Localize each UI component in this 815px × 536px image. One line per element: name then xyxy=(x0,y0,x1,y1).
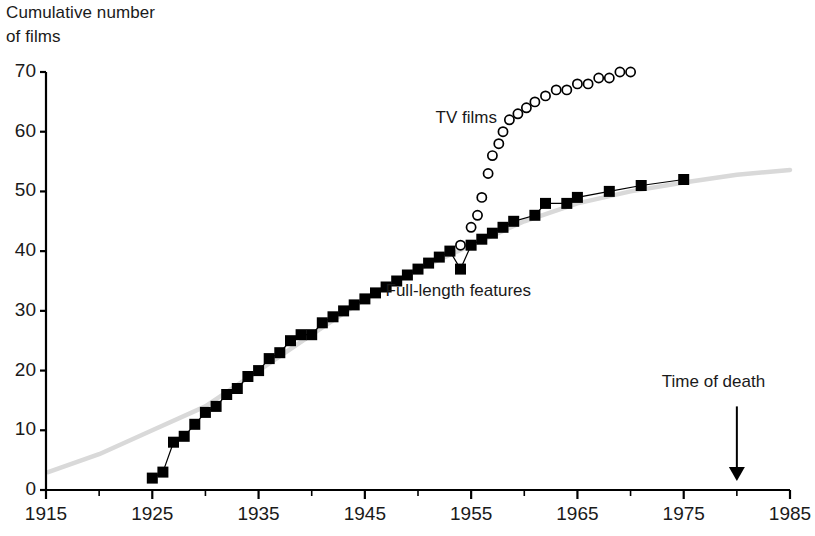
data-point-tv xyxy=(488,151,497,160)
y-axis-tick-label: 50 xyxy=(0,179,36,201)
data-point-tv xyxy=(498,127,507,136)
data-point-feature xyxy=(604,186,615,197)
x-axis-tick-label: 1985 xyxy=(755,503,815,525)
x-axis-tick-label: 1965 xyxy=(542,503,612,525)
annotation-time-of-death: Time of death xyxy=(662,372,765,392)
data-point-tv xyxy=(467,223,476,232)
data-point-feature xyxy=(636,180,647,191)
data-point-feature xyxy=(328,311,339,322)
data-point-feature xyxy=(572,192,583,203)
data-point-tv xyxy=(541,91,550,100)
data-point-feature xyxy=(306,329,317,340)
data-point-feature xyxy=(561,198,572,209)
data-point-feature xyxy=(402,270,413,281)
data-point-feature xyxy=(444,246,455,257)
data-point-tv xyxy=(552,85,561,94)
data-point-tv xyxy=(513,109,522,118)
data-point-feature xyxy=(296,329,307,340)
data-point-tv xyxy=(494,139,503,148)
data-point-feature xyxy=(338,305,349,316)
data-point-tv xyxy=(484,169,493,178)
annotation-full-length-features: Full-length features xyxy=(386,281,532,301)
y-axis-tick-label: 30 xyxy=(0,299,36,321)
y-axis-tick-label: 40 xyxy=(0,239,36,261)
data-point-tv xyxy=(522,103,531,112)
data-point-tv xyxy=(573,79,582,88)
x-axis-tick-label: 1975 xyxy=(649,503,719,525)
data-point-feature xyxy=(264,353,275,364)
data-point-feature xyxy=(413,264,424,275)
data-point-tv xyxy=(505,115,514,124)
data-point-feature xyxy=(232,383,243,394)
data-point-feature xyxy=(423,258,434,269)
data-point-feature xyxy=(370,287,381,298)
data-point-tv xyxy=(456,241,465,250)
data-point-feature xyxy=(189,419,200,430)
y-axis-tick-label: 0 xyxy=(0,478,36,500)
data-point-feature xyxy=(179,431,190,442)
data-point-feature xyxy=(168,437,179,448)
y-axis-tick-label: 10 xyxy=(0,418,36,440)
x-axis-tick-label: 1945 xyxy=(330,503,400,525)
data-point-tv xyxy=(584,79,593,88)
data-point-tv xyxy=(477,193,486,202)
data-point-feature xyxy=(221,389,232,400)
death-arrow-head xyxy=(729,467,745,481)
data-point-tv xyxy=(594,73,603,82)
data-point-feature xyxy=(147,473,158,484)
trend-line xyxy=(48,170,790,472)
data-point-feature xyxy=(242,371,253,382)
data-point-feature xyxy=(211,401,222,412)
data-point-tv xyxy=(562,85,571,94)
data-point-feature xyxy=(455,264,466,275)
data-point-feature xyxy=(285,335,296,346)
data-point-feature xyxy=(678,174,689,185)
data-point-feature xyxy=(466,240,477,251)
x-axis-tick-label: 1955 xyxy=(436,503,506,525)
data-point-tv xyxy=(605,73,614,82)
features-connector-line xyxy=(152,180,683,479)
data-point-feature xyxy=(157,467,168,478)
annotation-tv-films: TV films xyxy=(436,108,497,128)
data-point-feature xyxy=(529,210,540,221)
y-axis-tick-label: 20 xyxy=(0,359,36,381)
data-point-tv xyxy=(473,211,482,220)
data-point-feature xyxy=(540,198,551,209)
x-axis-tick-label: 1925 xyxy=(117,503,187,525)
data-point-feature xyxy=(487,228,498,239)
data-point-feature xyxy=(200,407,211,418)
y-axis-tick-label: 70 xyxy=(0,60,36,82)
data-point-feature xyxy=(317,317,328,328)
data-point-feature xyxy=(274,347,285,358)
data-point-feature xyxy=(498,222,509,233)
data-point-feature xyxy=(476,234,487,245)
data-point-tv xyxy=(626,67,635,76)
data-point-feature xyxy=(253,365,264,376)
data-point-feature xyxy=(359,293,370,304)
data-point-tv xyxy=(530,97,539,106)
data-point-feature xyxy=(508,216,519,227)
x-axis-tick-label: 1915 xyxy=(11,503,81,525)
y-axis-tick-label: 60 xyxy=(0,120,36,142)
data-point-tv xyxy=(615,67,624,76)
data-point-feature xyxy=(434,252,445,263)
x-axis-tick-label: 1935 xyxy=(224,503,294,525)
data-point-feature xyxy=(349,299,360,310)
